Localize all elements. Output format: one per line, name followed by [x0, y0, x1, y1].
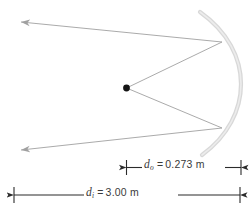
- image-distance-label: di=3.00 m: [86, 186, 139, 200]
- image-distance-equals: =: [97, 186, 103, 198]
- image-distance-subscript: i: [92, 191, 94, 200]
- object-distance-label: do=0.273 m: [144, 158, 205, 172]
- object-distance-value: 0.273: [165, 158, 192, 170]
- incident-ray-upper: [127, 42, 223, 88]
- object-distance-unit: m: [196, 158, 205, 170]
- image-distance-unit: m: [130, 186, 139, 198]
- concave-mirror-arc: [200, 12, 241, 155]
- object-distance-equals: =: [157, 158, 163, 170]
- ray-diagram-figure: do=0.273 m di=3.00 m: [0, 0, 251, 216]
- diagram-canvas: [0, 0, 251, 216]
- reflected-ray-upper: [21, 22, 222, 42]
- object-point: [123, 85, 130, 92]
- object-distance-subscript: o: [150, 163, 154, 172]
- reflected-ray-lower: [21, 128, 222, 150]
- image-distance-value: 3.00: [106, 186, 127, 198]
- incident-ray-lower: [127, 88, 223, 128]
